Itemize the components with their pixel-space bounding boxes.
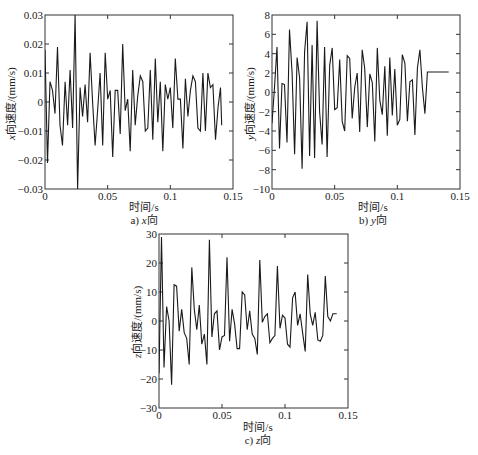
x-tick-label: 0 (156, 409, 162, 421)
x-tick-label: 0.15 (338, 409, 358, 421)
plot-area-frame (159, 234, 348, 408)
y-tick-label: 10 (146, 286, 158, 298)
y-tick-label: 30 (146, 228, 158, 240)
x-tick-label: 0.05 (212, 409, 232, 421)
y-tick-label: 0 (152, 315, 158, 327)
chart-panel-z: 00.050.10.15−30−20−100102030 z向速度/(mm/s)… (0, 0, 478, 455)
chart-z-plot: 00.050.10.15−30−20−100102030 (0, 0, 478, 455)
series-line-z (159, 237, 337, 385)
y-tick-label: −20 (140, 373, 158, 385)
caption-z: c) z向 (228, 431, 288, 447)
ylabel-z: z向速度/(mm/s) (128, 286, 144, 358)
y-tick-label: −30 (140, 402, 158, 414)
y-tick-label: 20 (146, 257, 158, 269)
